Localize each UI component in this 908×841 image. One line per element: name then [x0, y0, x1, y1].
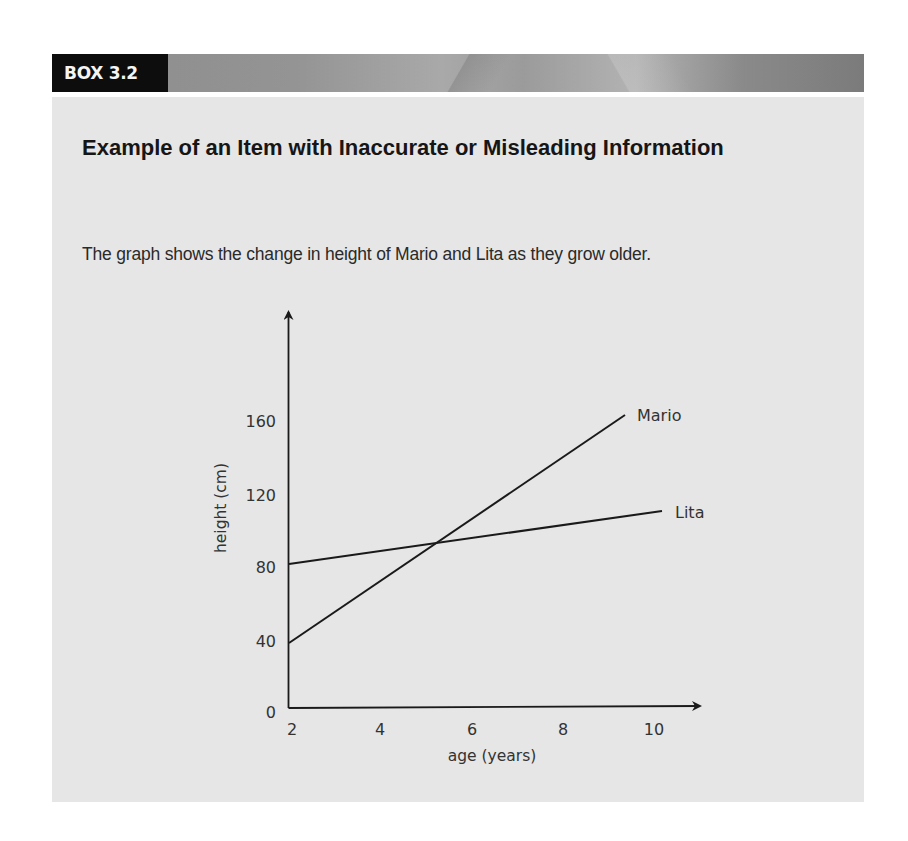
series-label-lita: Lita	[675, 503, 704, 522]
series-label-mario: Mario	[637, 406, 681, 425]
x-axis	[289, 706, 701, 708]
y-tick-label: 160	[245, 412, 276, 431]
x-tick-label: 10	[644, 720, 664, 739]
series-line-lita	[289, 511, 662, 564]
series-line-mario	[289, 415, 625, 643]
x-tick-label: 4	[375, 720, 385, 739]
x-tick-label: 6	[467, 720, 477, 739]
x-tick-label: 2	[287, 720, 297, 739]
y-tick-label: 120	[245, 486, 276, 505]
y-axis-label: height (cm)	[212, 463, 230, 553]
y-tick-label: 0	[266, 703, 276, 722]
y-tick-label: 80	[256, 558, 276, 577]
x-tick-label: 8	[558, 720, 568, 739]
x-axis-label: age (years)	[448, 747, 537, 765]
y-tick-label: 40	[256, 632, 276, 651]
line-chart: Mario Lita 160 120 80 40 0 2 4 6 8 10 ag…	[0, 0, 908, 841]
